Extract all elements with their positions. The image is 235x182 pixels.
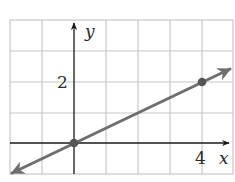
point-4-2 [198, 78, 207, 87]
y-axis-label: y [84, 21, 95, 41]
x-tick-label-4: 4 [195, 148, 206, 168]
point-origin [70, 139, 79, 148]
x-axis-label: x [219, 148, 229, 168]
coordinate-plane: y 2 4 x [0, 0, 235, 182]
y-tick-label-2: 2 [57, 72, 68, 92]
